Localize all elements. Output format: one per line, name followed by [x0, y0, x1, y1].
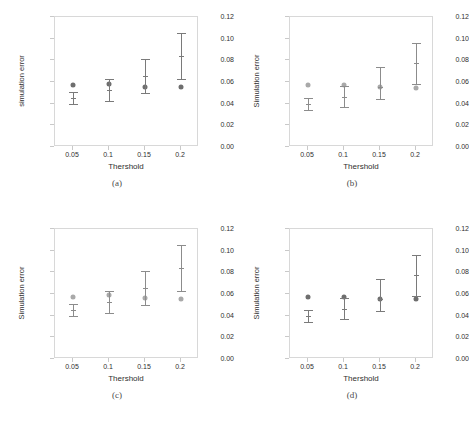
y-tick-mark	[50, 16, 54, 17]
y-tick-mark	[50, 38, 54, 39]
caption-b: (b)	[235, 178, 469, 188]
y-tick-label: 0.04	[439, 311, 469, 318]
x-tick-mark	[307, 358, 308, 362]
data-point-marker	[306, 295, 311, 300]
y-tick-label: 0.10	[439, 246, 469, 253]
y-tick-label: 0.12	[439, 13, 469, 20]
y-tick-mark	[285, 336, 289, 337]
series-group	[55, 229, 197, 357]
errorbar-cap	[304, 110, 313, 111]
x-tick-mark	[343, 358, 344, 362]
x-axis-title-b: Thershold	[289, 162, 433, 171]
errorbar-cap	[177, 291, 186, 292]
plot-area-c	[54, 228, 198, 358]
y-tick-label: 0.04	[204, 311, 234, 318]
y-tick-mark	[285, 81, 289, 82]
y-tick-label: 0.02	[439, 121, 469, 128]
subplot-d: Simulation error Thershold (d) 0.000.020…	[235, 212, 469, 423]
y-tick-mark	[285, 16, 289, 17]
y-tick-label: 0.08	[439, 268, 469, 275]
errorbar-whisker	[380, 67, 381, 98]
data-point-marker	[179, 296, 184, 301]
errorbar-cap	[69, 104, 78, 105]
x-tick-mark	[72, 146, 73, 150]
y-tick-label: 0.12	[204, 225, 234, 232]
data-point-marker	[306, 83, 311, 88]
y-tick-label: 0.00	[439, 143, 469, 150]
errorbar-cap	[376, 67, 385, 68]
errorbar-cap	[412, 84, 421, 85]
errorbar-cap	[412, 43, 421, 44]
errorbar-mean-tick	[378, 87, 383, 88]
errorbar-cap	[105, 101, 114, 102]
errorbar-cap	[340, 107, 349, 108]
subplot-c: Simulation error Thershold (c) 0.000.020…	[0, 212, 234, 423]
y-tick-label: 0.08	[204, 268, 234, 275]
y-tick-label: 0.10	[204, 246, 234, 253]
y-axis-title-d: Simulation error	[253, 233, 261, 353]
y-tick-label: 0.04	[204, 99, 234, 106]
errorbar-cap	[304, 322, 313, 323]
y-tick-mark	[50, 358, 54, 359]
x-tick-label: 0.15	[364, 363, 394, 370]
errorbar-cap	[69, 316, 78, 317]
y-tick-mark	[50, 315, 54, 316]
figure-panel-grid: simulation error Thershold (a) 0.000.020…	[0, 0, 469, 423]
y-tick-mark	[285, 358, 289, 359]
errorbar-cap	[177, 79, 186, 80]
errorbar-mean-tick	[306, 316, 311, 317]
errorbar-mean-tick	[71, 310, 76, 311]
x-tick-mark	[108, 146, 109, 150]
errorbar-cap	[69, 92, 78, 93]
y-tick-mark	[50, 271, 54, 272]
errorbar-cap	[177, 33, 186, 34]
y-tick-label: 0.00	[439, 355, 469, 362]
errorbar-cap	[340, 86, 349, 87]
caption-a: (a)	[0, 178, 234, 188]
errorbar-cap	[141, 59, 150, 60]
x-tick-label: 0.1	[328, 151, 358, 158]
y-tick-mark	[285, 271, 289, 272]
x-tick-label: 0.05	[292, 151, 322, 158]
y-tick-mark	[285, 38, 289, 39]
x-axis-title-a: Thershold	[54, 162, 198, 171]
x-tick-label: 0.2	[400, 363, 430, 370]
y-tick-label: 0.08	[204, 56, 234, 63]
errorbar-mean-tick	[342, 97, 347, 98]
errorbar-cap	[141, 271, 150, 272]
subplot-b: Simulation error Thershold (b) 0.000.020…	[235, 0, 469, 211]
y-tick-label: 0.06	[439, 78, 469, 85]
y-tick-mark	[285, 293, 289, 294]
errorbar-cap	[376, 311, 385, 312]
errorbar-cap	[376, 99, 385, 100]
y-tick-label: 0.06	[204, 78, 234, 85]
errorbar-cap	[105, 291, 114, 292]
y-tick-label: 0.00	[204, 355, 234, 362]
series-group	[55, 17, 197, 145]
x-tick-label: 0.2	[165, 151, 195, 158]
data-point-marker	[414, 297, 419, 302]
x-tick-mark	[415, 146, 416, 150]
x-tick-mark	[144, 358, 145, 362]
errorbar-cap	[304, 310, 313, 311]
errorbar-cap	[141, 93, 150, 94]
y-tick-mark	[285, 59, 289, 60]
x-tick-mark	[307, 146, 308, 150]
y-tick-mark	[50, 250, 54, 251]
y-tick-mark	[285, 103, 289, 104]
x-tick-label: 0.15	[129, 151, 159, 158]
errorbar-mean-tick	[306, 104, 311, 105]
errorbar-cap	[304, 98, 313, 99]
errorbar-cap	[177, 245, 186, 246]
data-point-marker	[179, 84, 184, 89]
subplot-a: simulation error Thershold (a) 0.000.020…	[0, 0, 234, 211]
errorbar-mean-tick	[143, 76, 148, 77]
x-tick-mark	[72, 358, 73, 362]
errorbar-cap	[69, 304, 78, 305]
series-group	[290, 17, 432, 145]
errorbar-cap	[105, 79, 114, 80]
y-tick-mark	[285, 146, 289, 147]
data-point-marker	[71, 83, 76, 88]
y-tick-mark	[50, 103, 54, 104]
errorbar-cap	[340, 319, 349, 320]
